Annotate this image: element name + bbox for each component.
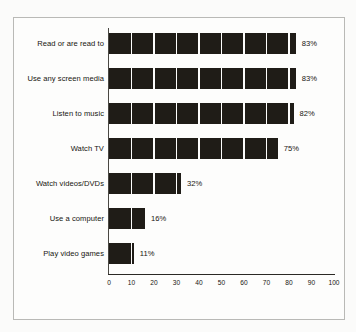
bar-segment-separators — [109, 33, 296, 54]
bar-segment-separators — [109, 173, 181, 194]
value-label-4: 75% — [284, 145, 299, 153]
x-tick-label-10: 10 — [128, 280, 135, 287]
x-tick-label-20: 20 — [150, 280, 157, 287]
bar-separator-line — [243, 103, 244, 124]
bar-separator-line — [288, 68, 289, 89]
bar-separator-line — [153, 68, 154, 89]
bar-separator-line — [153, 103, 154, 124]
x-tick-label-40: 40 — [195, 280, 202, 287]
bar-separator-line — [243, 33, 244, 54]
bar-separator-line — [198, 33, 199, 54]
value-label-2: 83% — [302, 75, 317, 83]
x-tick-label-70: 70 — [263, 280, 270, 287]
bar-segment-separators — [109, 138, 278, 159]
bar-separator-line — [288, 33, 289, 54]
value-label-6: 16% — [151, 215, 166, 223]
category-label-text: Watch videos/DVDs — [20, 180, 104, 188]
bar-separator-line — [198, 138, 199, 159]
bar-separator-line — [176, 138, 177, 159]
bar-6 — [109, 208, 145, 229]
bar-separator-line — [266, 68, 267, 89]
bar-segment-separators — [109, 103, 294, 124]
x-tick-label-30: 30 — [173, 280, 180, 287]
bar-separator-line — [266, 103, 267, 124]
y-axis-line — [108, 28, 109, 274]
x-tick-label-80: 80 — [285, 280, 292, 287]
bar-separator-line — [131, 68, 132, 89]
value-label-7: 11% — [140, 250, 155, 258]
bar-separator-line — [198, 103, 199, 124]
bar-2 — [109, 68, 296, 89]
bar-separator-line — [131, 173, 132, 194]
bar-7 — [109, 243, 134, 264]
value-label-1: 83% — [302, 40, 317, 48]
value-label-3: 82% — [300, 110, 315, 118]
bar-separator-line — [176, 173, 177, 194]
category-label-text: Use any screen media — [20, 75, 104, 83]
bar-segment-separators — [109, 208, 145, 229]
x-tick-label-0: 0 — [107, 280, 111, 287]
x-tick-label-100: 100 — [328, 280, 339, 287]
category-label-text: Listen to music — [20, 110, 104, 118]
bar-separator-line — [288, 103, 289, 124]
bar-separator-line — [221, 68, 222, 89]
x-tick-label-90: 90 — [308, 280, 315, 287]
bar-separator-line — [131, 33, 132, 54]
bar-separator-line — [221, 138, 222, 159]
x-axis-line — [108, 274, 335, 275]
bar-separator-line — [176, 103, 177, 124]
x-tick-label-50: 50 — [218, 280, 225, 287]
bar-separator-line — [266, 33, 267, 54]
bar-separator-line — [243, 138, 244, 159]
bar-separator-line — [266, 138, 267, 159]
bar-chart: Read or are read to83%Use any screen med… — [0, 0, 356, 332]
bar-separator-line — [176, 33, 177, 54]
x-tick-label-60: 60 — [240, 280, 247, 287]
bar-segment-separators — [109, 68, 296, 89]
bar-separator-line — [153, 33, 154, 54]
category-label-text: Play video games — [20, 250, 104, 258]
category-label-text: Watch TV — [20, 145, 104, 153]
bar-separator-line — [243, 68, 244, 89]
bar-3 — [109, 103, 294, 124]
bar-separator-line — [221, 33, 222, 54]
bar-separator-line — [221, 103, 222, 124]
category-label-text: Use a computer — [20, 215, 104, 223]
bar-separator-line — [131, 138, 132, 159]
bar-separator-line — [153, 173, 154, 194]
bar-4 — [109, 138, 278, 159]
bar-separator-line — [176, 68, 177, 89]
category-label-text: Read or are read to — [20, 40, 104, 48]
bar-separator-line — [198, 68, 199, 89]
bar-1 — [109, 33, 296, 54]
bar-separator-line — [153, 138, 154, 159]
bar-separator-line — [131, 208, 132, 229]
value-label-5: 32% — [187, 180, 202, 188]
bar-separator-line — [131, 103, 132, 124]
bar-separator-line — [131, 243, 132, 264]
bar-segment-separators — [109, 243, 134, 264]
bar-5 — [109, 173, 181, 194]
